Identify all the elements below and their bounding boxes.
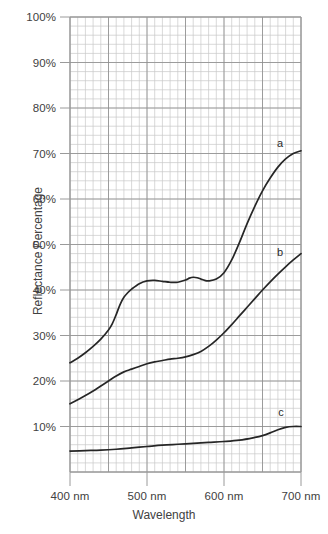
y-tick-label-20: 20%: [0, 375, 56, 387]
reflectance-chart: 100%90%80%70%60%50%40%30%20%10% 400 nm50…: [0, 0, 328, 534]
x-tick-label-500: 500 nm: [128, 490, 167, 502]
y-tick-label-60: 60%: [0, 193, 56, 205]
y-axis-title: Reflectance Percentage: [31, 151, 45, 351]
y-tick-label-100: 100%: [0, 11, 56, 23]
curve-label-b: b: [277, 246, 283, 258]
x-tick-label-700: 700 nm: [282, 490, 321, 502]
y-tick-label-50: 50%: [0, 239, 56, 251]
x-tick-label-600: 600 nm: [205, 490, 244, 502]
y-tick-label-30: 30%: [0, 330, 56, 342]
x-axis-title: Wavelength: [0, 508, 328, 522]
tick-marks: [60, 17, 301, 486]
major-gridlines: [70, 17, 301, 472]
y-tick-label-90: 90%: [0, 57, 56, 69]
curve-label-c: c: [278, 406, 284, 418]
curve-label-a: a: [277, 137, 283, 149]
x-tick-label-400: 400 nm: [51, 490, 90, 502]
y-tick-label-40: 40%: [0, 284, 56, 296]
y-tick-label-70: 70%: [0, 148, 56, 160]
y-tick-label-10: 10%: [0, 421, 56, 433]
plot-canvas: [0, 0, 328, 534]
y-tick-label-80: 80%: [0, 102, 56, 114]
